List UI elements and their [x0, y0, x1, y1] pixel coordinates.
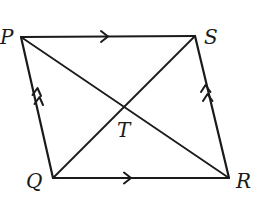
intersection-label-T: T	[117, 118, 132, 142]
diagram-svg: P S Q R T	[0, 0, 262, 198]
diagonal-QS	[53, 36, 195, 178]
vertex-label-P: P	[0, 25, 14, 49]
diagonal-PR	[21, 37, 229, 178]
vertex-label-R: R	[235, 169, 251, 193]
double-arrow-icon-RS	[201, 85, 213, 101]
side-RS	[195, 36, 229, 178]
vertex-label-Q: Q	[26, 169, 42, 193]
side-QP	[21, 37, 53, 178]
parallelogram-diagram: P S Q R T	[0, 0, 262, 198]
vertex-label-S: S	[204, 25, 218, 49]
